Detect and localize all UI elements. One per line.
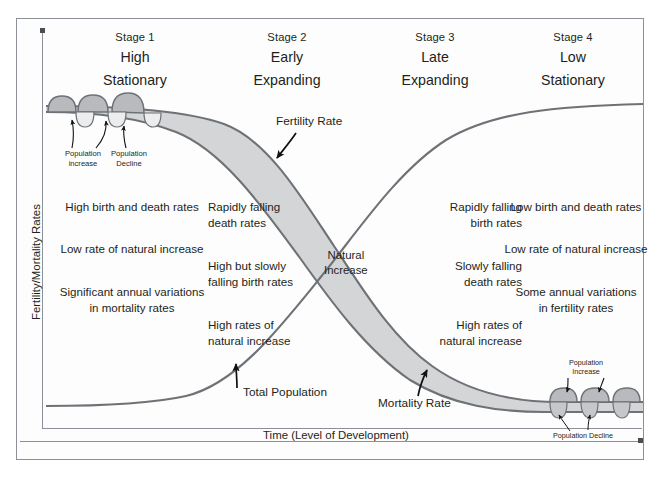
stage-4-bullet-3: Some annual variations in fertility rate…	[496, 284, 656, 317]
stage-2-number: Stage 2	[212, 30, 362, 44]
stage-1-bullet-3-line-1: Significant annual variations	[42, 284, 222, 300]
stage-2-bullet-2-line-1: High but slowly	[208, 258, 328, 274]
y-axis-label: Fertility/Mortality Rates	[30, 204, 42, 320]
stage-1-bullet-3: Significant annual variations in mortali…	[42, 284, 222, 317]
mortality-rate-label: Mortality Rate	[378, 396, 451, 410]
natural-increase-label: Natural Increase	[324, 248, 368, 278]
stage-3-name-line2: Expanding	[360, 71, 510, 90]
stage-4-bullet-2: Low rate of natural increase	[496, 241, 656, 257]
stage-3-bullet-3-line-1: High rates of	[398, 317, 522, 333]
stage-1-bullet-2: Low rate of natural increase	[42, 241, 222, 257]
stage-2-bullets: Rapidly falling death rates High but slo…	[208, 199, 328, 350]
stage4-increase-line-1: Population	[558, 358, 614, 367]
stage4-increase-line-2: Increase	[558, 367, 614, 376]
stage1-decline-line-2: Decline	[100, 159, 158, 169]
stage1-population-decline-annotation: Population Decline	[100, 149, 158, 169]
stage-1-bullet-1: High birth and death rates	[42, 199, 222, 215]
y-axis-arrow-icon	[40, 28, 45, 33]
stage4-population-increase-annotation: Population Increase	[558, 358, 614, 377]
stage-4-bullet-3-line-1: Some annual variations	[496, 284, 656, 300]
x-axis-arrow-icon	[638, 438, 643, 443]
stage4-population-decline-annotation: Population Decline	[543, 431, 623, 440]
stage-4-bullets: Low birth and death rates Low rate of na…	[496, 199, 656, 317]
stage-4-bullet-1: Low birth and death rates	[496, 199, 656, 215]
stage-1-name-line2: Stationary	[60, 71, 210, 90]
stage-2-bullet-3-line-1: High rates of	[208, 317, 328, 333]
stage-2-bullet-2: High but slowly falling birth rates	[208, 258, 328, 291]
natural-increase-line-1: Natural	[324, 248, 368, 263]
stage-3-name-line1: Late	[360, 48, 510, 67]
stage-3-bullet-3-line-2: natural increase	[398, 333, 522, 349]
stage-4-name-line2: Stationary	[498, 71, 648, 90]
stage-2-name-line1: Early	[212, 48, 362, 67]
stage-header-4: Stage 4 Low Stationary	[498, 30, 648, 89]
stage1-decline-line-1: Population	[100, 149, 158, 159]
stage-2-bullet-1: Rapidly falling death rates	[208, 199, 328, 232]
stage-1-number: Stage 1	[60, 30, 210, 44]
stage-4-name-line1: Low	[498, 48, 648, 67]
stage-4-number: Stage 4	[498, 30, 648, 44]
stage-header-3: Stage 3 Late Expanding	[360, 30, 510, 89]
total-population-label: Total Population	[243, 385, 327, 399]
stage-2-bullet-2-line-2: falling birth rates	[208, 274, 328, 290]
stage-4-bullet-2-line-1: Low rate of natural increase	[496, 241, 656, 257]
stage-1-bullets: High birth and death rates Low rate of n…	[42, 199, 222, 317]
stage-header-1: Stage 1 High Stationary	[60, 30, 210, 89]
x-axis-baseline	[20, 441, 642, 442]
stage-1-bullet-3-line-2: in mortality rates	[42, 300, 222, 316]
stage-1-bullet-2-line-1: Low rate of natural increase	[42, 241, 222, 257]
stage-3-number: Stage 3	[360, 30, 510, 44]
stage-1-bullet-1-line-1: High birth and death rates	[42, 199, 222, 215]
natural-increase-line-2: Increase	[324, 263, 368, 278]
stage-1-name-line1: High	[60, 48, 210, 67]
stage-3-bullet-3: High rates of natural increase	[398, 317, 522, 350]
stage-header-2: Stage 2 Early Expanding	[212, 30, 362, 89]
x-axis-label: Time (Level of Development)	[196, 429, 476, 441]
stage-2-bullet-3-line-2: natural increase	[208, 333, 328, 349]
stage-2-bullet-1-line-1: Rapidly falling	[208, 199, 328, 215]
stage-2-name-line2: Expanding	[212, 71, 362, 90]
stage-4-bullet-3-line-2: in fertility rates	[496, 300, 656, 316]
demographic-transition-figure: Stage 1 High Stationary Stage 2 Early Ex…	[0, 0, 661, 486]
fertility-rate-label: Fertility Rate	[276, 114, 342, 128]
stage-2-bullet-1-line-2: death rates	[208, 215, 328, 231]
stage-2-bullet-3: High rates of natural increase	[208, 317, 328, 350]
stage-4-bullet-1-line-1: Low birth and death rates	[496, 199, 656, 215]
